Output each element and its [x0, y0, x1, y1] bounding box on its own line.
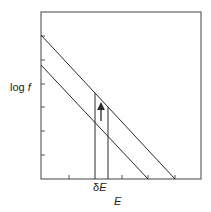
plot-frame: [41, 12, 201, 179]
y-axis-label: log f: [10, 81, 32, 93]
x-axis-ticks: [69, 175, 175, 179]
delta-e-label: δE: [93, 181, 107, 193]
y-axis-ticks: [41, 36, 45, 155]
log-f-vs-energy-diagram: log f δE E: [0, 0, 211, 212]
x-axis-label: E: [114, 195, 122, 207]
